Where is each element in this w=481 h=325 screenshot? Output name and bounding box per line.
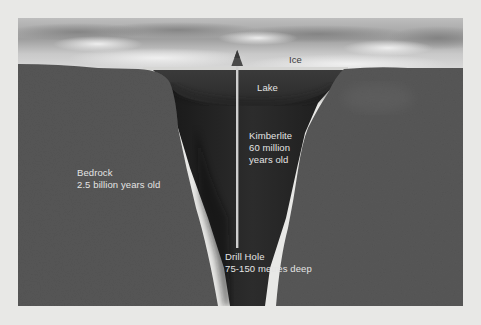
lake-label: Lake bbox=[257, 82, 278, 94]
kimberlite-label-line3: years old bbox=[249, 154, 292, 166]
kimberlite-label-line2: 60 million bbox=[249, 142, 292, 154]
drill-hole-label-line1: Drill Hole bbox=[225, 251, 312, 263]
ice-label: Ice bbox=[289, 54, 302, 66]
cross-section-figure: Ice Lake Kimberlite 60 million years old… bbox=[18, 18, 463, 306]
bedrock-label: Bedrock 2.5 billion years old bbox=[77, 167, 160, 191]
bedrock-label-line2: 2.5 billion years old bbox=[77, 179, 160, 191]
kimberlite-label: Kimberlite 60 million years old bbox=[249, 130, 292, 166]
kimberlite-label-line1: Kimberlite bbox=[249, 130, 292, 142]
drill-hole-label-line2: 75-150 metres deep bbox=[225, 263, 312, 275]
drill-hole-label: Drill Hole 75-150 metres deep bbox=[225, 251, 312, 275]
diagram-canvas: Ice Lake Kimberlite 60 million years old… bbox=[0, 0, 481, 325]
bedrock-label-line1: Bedrock bbox=[77, 167, 160, 179]
